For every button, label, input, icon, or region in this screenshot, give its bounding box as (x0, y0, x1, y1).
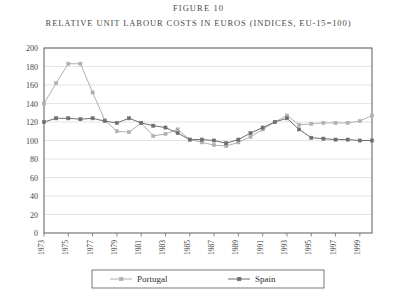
series-line (44, 64, 372, 146)
data-point-marker (212, 144, 215, 147)
y-axis-tick-label: 160 (26, 81, 38, 90)
x-axis-tick-label: 1997 (329, 240, 338, 255)
x-axis-tick-label: 1977 (86, 240, 95, 255)
x-axis-tick-label: 1985 (183, 240, 192, 255)
data-point-marker (358, 139, 361, 142)
x-axis-tick-label: 1993 (280, 240, 289, 255)
line-chart: 0204060801001201401601802001973197519771… (0, 38, 397, 296)
data-point-marker (176, 128, 179, 131)
x-axis-tick-label: 1989 (231, 240, 240, 255)
x-axis-tick-label: 1995 (304, 240, 313, 255)
data-point-marker (127, 117, 130, 120)
legend-marker-swatch (237, 277, 241, 281)
x-axis-tick-label: 1987 (207, 240, 216, 255)
data-point-marker (79, 62, 82, 65)
data-point-marker (370, 139, 373, 142)
data-point-marker (310, 122, 313, 125)
legend-item-portugal[interactable]: Portugal (110, 274, 168, 284)
data-point-marker (225, 142, 228, 145)
data-point-marker (298, 128, 301, 131)
x-axis-tick-label: 1981 (134, 240, 143, 255)
data-point-marker (164, 132, 167, 135)
data-point-marker (164, 126, 167, 129)
data-point-marker (42, 102, 45, 105)
data-point-marker (103, 119, 106, 122)
data-point-marker (42, 120, 45, 123)
data-point-marker (79, 118, 82, 121)
y-axis-tick-label: 120 (26, 118, 38, 127)
data-point-marker (322, 121, 325, 124)
x-axis-tick-label: 1999 (353, 240, 362, 255)
figure-container: FIGURE 10 RELATIVE UNIT LABOUR COSTS IN … (0, 0, 397, 296)
data-point-marker (334, 121, 337, 124)
y-axis-tick-label: 40 (30, 192, 38, 201)
data-point-marker (67, 62, 70, 65)
data-point-marker (237, 138, 240, 141)
x-axis: 1973197519771979198119831985198719891991… (37, 233, 362, 255)
x-axis-tick-label: 1979 (110, 240, 119, 255)
series-portugal (42, 62, 373, 148)
data-point-marker (152, 134, 155, 137)
data-point-marker (55, 82, 58, 85)
x-axis-tick-label: 1973 (37, 240, 46, 255)
data-point-marker (200, 138, 203, 141)
data-point-marker (115, 130, 118, 133)
gridlines: 020406080100120140160180200 (26, 44, 372, 238)
legend-marker-swatch (119, 277, 123, 281)
y-axis-tick-label: 80 (30, 155, 38, 164)
data-point-marker (249, 132, 252, 135)
y-axis-tick-label: 100 (26, 137, 38, 146)
data-point-marker (346, 121, 349, 124)
data-point-marker (249, 135, 252, 138)
y-axis-tick-label: 20 (30, 211, 38, 220)
data-point-marker (188, 138, 191, 141)
data-point-marker (346, 138, 349, 141)
data-point-marker (334, 138, 337, 141)
data-point-marker (176, 132, 179, 135)
data-point-marker (322, 137, 325, 140)
figure-title: RELATIVE UNIT LABOUR COSTS IN EUROS (IND… (0, 18, 397, 28)
data-point-marker (285, 117, 288, 120)
data-point-marker (55, 117, 58, 120)
data-point-marker (115, 121, 118, 124)
figure-number: FIGURE 10 (0, 3, 397, 13)
chart-plot-area: 0204060801001201401601802001973197519771… (0, 38, 397, 238)
x-axis-tick-label: 1975 (61, 240, 70, 255)
data-point-marker (370, 114, 373, 117)
legend-item-spain[interactable]: Spain (228, 274, 276, 284)
data-point-marker (67, 117, 70, 120)
y-axis-tick-label: 200 (26, 44, 38, 53)
y-axis-tick-label: 0 (34, 229, 38, 238)
x-axis-tick-label: 1991 (256, 240, 265, 255)
data-point-marker (140, 121, 143, 124)
data-point-marker (261, 126, 264, 129)
data-point-marker (273, 120, 276, 123)
legend-label: Portugal (137, 274, 168, 284)
data-point-marker (152, 124, 155, 127)
x-axis-tick-label: 1983 (158, 240, 167, 255)
data-point-marker (212, 139, 215, 142)
data-point-marker (91, 91, 94, 94)
data-point-marker (127, 131, 130, 134)
y-axis-tick-label: 60 (30, 174, 38, 183)
chart-legend: PortugalSpain (92, 270, 324, 288)
data-point-marker (298, 123, 301, 126)
data-point-marker (358, 119, 361, 122)
y-axis-tick-label: 140 (26, 100, 38, 109)
legend-label: Spain (255, 274, 276, 284)
data-point-marker (91, 117, 94, 120)
data-point-marker (310, 136, 313, 139)
y-axis-tick-label: 180 (26, 63, 38, 72)
